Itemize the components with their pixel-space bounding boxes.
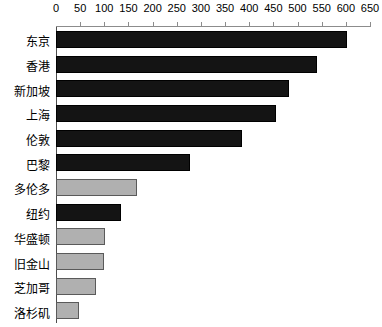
x-tick-mark bbox=[370, 22, 371, 27]
x-tick-label: 350 bbox=[216, 2, 234, 15]
bar bbox=[56, 80, 289, 97]
category-label: 旧金山 bbox=[0, 255, 50, 272]
bar-row: 华盛顿 bbox=[0, 225, 382, 250]
bar bbox=[56, 228, 105, 245]
bar bbox=[56, 154, 190, 171]
bar-row: 巴黎 bbox=[0, 150, 382, 175]
category-label: 东京 bbox=[0, 32, 50, 49]
x-tick-mark bbox=[80, 22, 81, 27]
bar-row: 上海 bbox=[0, 101, 382, 126]
x-tick-label: 100 bbox=[95, 2, 113, 15]
bar-rows: 东京香港新加坡上海伦敦巴黎多伦多纽约华盛顿旧金山芝加哥洛杉矶 bbox=[0, 27, 382, 323]
x-tick-mark bbox=[225, 22, 226, 27]
bar-row: 多伦多 bbox=[0, 175, 382, 200]
bar-row: 香港 bbox=[0, 52, 382, 77]
bar-row: 伦敦 bbox=[0, 126, 382, 151]
bar-row: 旧金山 bbox=[0, 249, 382, 274]
x-tick-label: 500 bbox=[288, 2, 306, 15]
x-tick-mark bbox=[177, 22, 178, 27]
x-tick-mark bbox=[153, 22, 154, 27]
category-label: 新加坡 bbox=[0, 82, 50, 99]
category-label: 香港 bbox=[0, 57, 50, 74]
x-tick-label: 150 bbox=[119, 2, 137, 15]
bar bbox=[56, 278, 96, 295]
x-tick-mark bbox=[346, 22, 347, 27]
bar bbox=[56, 105, 276, 122]
category-label: 伦敦 bbox=[0, 131, 50, 148]
category-label: 芝加哥 bbox=[0, 279, 50, 296]
x-tick-label: 50 bbox=[74, 2, 86, 15]
bar bbox=[56, 253, 104, 270]
x-tick-label: 550 bbox=[313, 2, 331, 15]
x-tick-label: 200 bbox=[143, 2, 161, 15]
category-label: 巴黎 bbox=[0, 156, 50, 173]
x-tick-mark bbox=[249, 22, 250, 27]
x-tick-label: 300 bbox=[192, 2, 210, 15]
category-label: 华盛顿 bbox=[0, 230, 50, 247]
bar bbox=[56, 179, 137, 196]
x-axis-tick-labels: 050100150200250300350400450500550600650 bbox=[0, 2, 382, 17]
x-tick-label: 450 bbox=[264, 2, 282, 15]
x-tick-label: 650 bbox=[361, 2, 379, 15]
bar-row: 东京 bbox=[0, 27, 382, 52]
category-label: 纽约 bbox=[0, 205, 50, 222]
x-tick-label: 400 bbox=[240, 2, 258, 15]
bar bbox=[56, 302, 79, 319]
bar-chart: 050100150200250300350400450500550600650 … bbox=[0, 0, 382, 327]
bar-row: 洛杉矶 bbox=[0, 299, 382, 324]
bar-row: 新加坡 bbox=[0, 76, 382, 101]
x-tick-mark bbox=[201, 22, 202, 27]
bar bbox=[56, 31, 347, 48]
bar-row: 纽约 bbox=[0, 200, 382, 225]
bar-row: 芝加哥 bbox=[0, 274, 382, 299]
bar bbox=[56, 130, 242, 147]
x-tick-label: 250 bbox=[168, 2, 186, 15]
x-tick-label: 600 bbox=[337, 2, 355, 15]
x-tick-label: 0 bbox=[53, 2, 59, 15]
x-tick-mark bbox=[104, 22, 105, 27]
bar bbox=[56, 204, 121, 221]
x-tick-mark bbox=[298, 22, 299, 27]
category-label: 多伦多 bbox=[0, 180, 50, 197]
x-tick-mark bbox=[322, 22, 323, 27]
x-tick-mark bbox=[128, 22, 129, 27]
category-label: 洛杉矶 bbox=[0, 304, 50, 321]
category-label: 上海 bbox=[0, 106, 50, 123]
x-tick-mark bbox=[273, 22, 274, 27]
bar bbox=[56, 56, 317, 73]
